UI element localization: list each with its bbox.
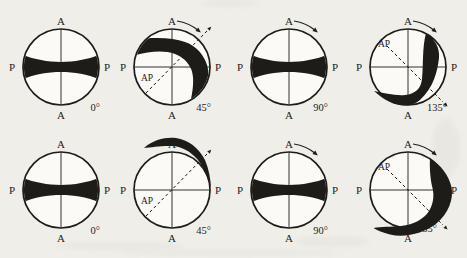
stage-angle-label: 135° <box>417 223 437 234</box>
stage-angle-label: 45° <box>196 102 211 113</box>
analyzer-label-bottom: A <box>168 109 176 121</box>
polarizer-label-right: P <box>451 61 457 73</box>
polarizer-label-left: P <box>356 61 362 73</box>
polarizer-label-left: P <box>237 61 243 73</box>
analyzer-label-bottom: A <box>404 109 412 121</box>
analyzer-label-bottom: A <box>285 232 293 244</box>
polarizer-label-left: P <box>356 184 362 196</box>
analyzer-label-top: A <box>57 15 65 27</box>
ap-arrowhead-icon <box>207 150 211 154</box>
stage-angle-label: 45° <box>196 225 211 236</box>
analyzer-label-top: A <box>57 138 65 150</box>
analyzer-label-top: A <box>285 138 293 150</box>
stage-angle-label: 135° <box>427 102 447 113</box>
analyzer-label-top: A <box>168 138 176 150</box>
analyzer-label-bottom: A <box>168 232 176 244</box>
polarizer-label-right: P <box>451 184 457 196</box>
analyzer-label-top: A <box>404 138 412 150</box>
analyzer-label-bottom: A <box>57 109 65 121</box>
analyzer-label-bottom: A <box>57 232 65 244</box>
polarizer-label-right: P <box>332 184 338 196</box>
diagram-row1-45deg: AP A A P P 45° <box>114 3 230 132</box>
analyzer-label-top: A <box>404 15 412 27</box>
ap-axis-label: AP <box>141 73 153 83</box>
analyzer-label-bottom: A <box>285 109 293 121</box>
analyzer-label-top: A <box>168 15 176 27</box>
polarizer-label-left: P <box>237 184 243 196</box>
diagram-row2-90deg: A A P P 90° <box>231 126 347 255</box>
stage-angle-label: 0° <box>91 102 100 113</box>
analyzer-label-top: A <box>285 15 293 27</box>
ap-axis-label: AP <box>378 39 390 49</box>
ap-axis-label: AP <box>378 162 390 172</box>
diagram-row2-45deg: AP A A P P 45° <box>114 126 230 255</box>
polarizer-label-left: P <box>9 61 15 73</box>
ap-axis-label: AP <box>141 196 153 206</box>
polarizer-label-right: P <box>332 61 338 73</box>
ap-arrowhead-icon <box>207 27 211 31</box>
stage-angle-label: 90° <box>313 102 328 113</box>
polarizer-label-left: P <box>120 61 126 73</box>
polarizer-label-right: P <box>215 184 221 196</box>
diagram-row1-135deg: AP A A P P 135° <box>350 3 466 132</box>
interference-figure-rotation-diagram: A A P P 0° AP A A P P 45° <box>0 0 467 258</box>
stage-angle-label: 0° <box>91 225 100 236</box>
stage-angle-label: 90° <box>313 225 328 236</box>
ap-arrowhead-icon <box>443 225 447 229</box>
diagram-row1-90deg: A A P P 90° <box>231 3 347 132</box>
diagram-row2-0deg: A A P P 0° <box>3 126 119 255</box>
diagram-row1-0deg: A A P P 0° <box>3 3 119 132</box>
diagram-row2-135deg: AP A A P P 135° <box>350 126 466 255</box>
analyzer-label-bottom: A <box>404 232 412 244</box>
polarizer-label-left: P <box>9 184 15 196</box>
polarizer-label-right: P <box>104 184 110 196</box>
polarizer-label-left: P <box>120 184 126 196</box>
polarizer-label-right: P <box>104 61 110 73</box>
polarizer-label-right: P <box>215 61 221 73</box>
